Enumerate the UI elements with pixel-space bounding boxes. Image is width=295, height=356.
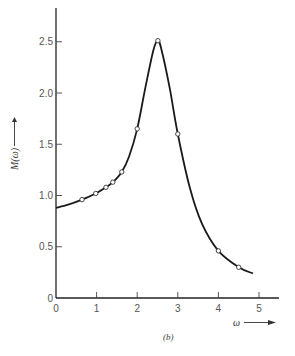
axis-ticks: 01234500.51.01.52.02.5 bbox=[39, 36, 262, 314]
y-tick-label: 1.5 bbox=[39, 139, 53, 150]
axes bbox=[56, 8, 279, 298]
x-tick-label: 4 bbox=[216, 303, 222, 314]
data-point-marker bbox=[176, 132, 180, 136]
figure-caption: (b) bbox=[163, 332, 174, 342]
response-curve bbox=[56, 41, 253, 274]
chart: 01234500.51.01.52.02.5 M(ω) ω (b) bbox=[0, 0, 295, 356]
data-point-marker bbox=[94, 191, 98, 195]
data-point-marker bbox=[216, 249, 220, 253]
y-tick-label: 0 bbox=[47, 293, 53, 304]
y-tick-label: 1.0 bbox=[39, 190, 53, 201]
y-axis-label: M(ω) bbox=[9, 147, 21, 171]
y-axis-label-group: M(ω) bbox=[9, 117, 21, 171]
data-point-marker bbox=[237, 265, 241, 269]
data-point-marker bbox=[156, 39, 160, 43]
data-point-marker bbox=[104, 185, 108, 189]
y-tick-label: 0.5 bbox=[39, 241, 53, 252]
data-point-marker bbox=[111, 180, 115, 184]
x-tick-label: 1 bbox=[94, 303, 100, 314]
x-tick-label: 5 bbox=[256, 303, 262, 314]
data-markers bbox=[80, 39, 241, 270]
x-tick-label: 3 bbox=[175, 303, 181, 314]
x-axis-label-arrow-head bbox=[268, 320, 276, 325]
y-tick-label: 2.5 bbox=[39, 36, 53, 47]
y-axis-label-arrow-head bbox=[12, 117, 17, 122]
data-point-marker bbox=[135, 127, 139, 131]
x-axis-label: ω bbox=[233, 317, 240, 328]
x-tick-label: 2 bbox=[134, 303, 140, 314]
x-tick-label: 0 bbox=[53, 303, 59, 314]
data-point-marker bbox=[80, 197, 84, 201]
data-point-marker bbox=[120, 170, 124, 174]
curve-path bbox=[56, 41, 253, 274]
y-tick-label: 2.0 bbox=[39, 88, 53, 99]
